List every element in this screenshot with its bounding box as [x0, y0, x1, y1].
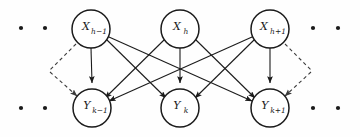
edge-dashed-x-hp1-offscreen	[285, 44, 311, 70]
node-x-h[interactable]: X h	[161, 10, 199, 48]
graph-svg: X h−1 X h X h+1 Y k−1 Y k Y k+1	[0, 0, 360, 137]
ellipsis-dot	[336, 26, 340, 30]
node-y-kp1[interactable]: Y k+1	[251, 89, 289, 127]
node-x-hp1-base: X	[259, 20, 269, 33]
node-y-kp1-subscript: k+1	[270, 106, 286, 115]
node-x-hp1-subscript: h+1	[270, 27, 286, 36]
ellipsis-dot	[311, 26, 315, 30]
node-x-hm1[interactable]: X h−1	[72, 10, 110, 48]
edge-dashed-offscreen-y-km1	[50, 72, 77, 96]
node-y-k[interactable]: Y k	[161, 89, 199, 127]
node-x-hm1-base: X	[81, 20, 91, 33]
ellipsis-dot	[43, 26, 47, 30]
edge-x-hm1-to-y-km1	[91, 48, 92, 83]
node-x-h-subscript: h	[184, 27, 189, 36]
edge-x-hm1-to-y-k	[107, 40, 166, 98]
ellipsis-dot	[19, 106, 23, 110]
node-y-k-subscript: k	[184, 106, 189, 115]
ellipsis-dot	[336, 106, 340, 110]
node-x-hm1-subscript: h−1	[91, 27, 107, 36]
node-y-km1-subscript: k−1	[92, 106, 108, 115]
ellipsis-dot	[43, 106, 47, 110]
ellipsis-dot	[311, 106, 315, 110]
edge-x-hp1-to-y-k	[195, 40, 254, 98]
node-x-h-base: X	[172, 20, 182, 33]
edge-dashed-offscreen-y-kp1	[285, 72, 311, 96]
edge-dashed-x-hm1-offscreen	[50, 44, 76, 70]
node-y-km1[interactable]: Y k−1	[73, 89, 111, 127]
ellipsis-dot	[19, 26, 23, 30]
diagram-canvas: X h−1 X h X h+1 Y k−1 Y k Y k+1	[0, 0, 360, 137]
node-x-hp1[interactable]: X h+1	[251, 10, 289, 48]
